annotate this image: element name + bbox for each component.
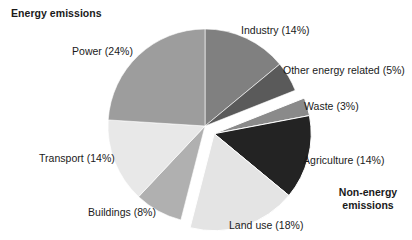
slice-label-land-use: Land use (18%) — [229, 219, 303, 231]
slice-label-power: Power (24%) — [72, 45, 133, 57]
non-energy-line-2: emissions — [342, 199, 393, 211]
pie-slice-group — [108, 29, 311, 231]
non-energy-line-1: Non-energy — [339, 186, 397, 198]
pie-chart-figure: Energy emissions Industry (14%) Other en… — [0, 0, 412, 240]
slice-label-agriculture: Agriculture (14%) — [303, 154, 384, 166]
slice-label-other-energy-related: Other energy related (5%) — [283, 64, 405, 76]
non-energy-emissions-heading: Non-energy emissions — [330, 186, 406, 212]
pie-slice-power — [108, 29, 205, 126]
slice-label-transport: Transport (14%) — [39, 152, 115, 164]
slice-label-waste: Waste (3%) — [304, 100, 359, 112]
slice-label-buildings: Buildings (8%) — [88, 206, 156, 218]
slice-label-industry: Industry (14%) — [241, 24, 310, 36]
